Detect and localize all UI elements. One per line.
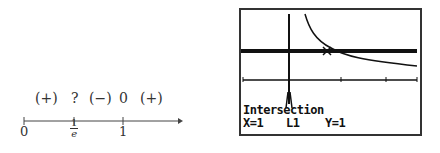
- sign-undefined: ?: [71, 90, 79, 106]
- y-value: Y=1: [325, 116, 345, 130]
- number-line: [0, 0, 200, 153]
- cursor-indicator: L1: [286, 116, 299, 130]
- tick-label-one-over-e: 1 e: [70, 118, 78, 139]
- tick-label-0: 0: [20, 124, 28, 139]
- sign-positive-2: (+): [140, 90, 163, 106]
- sign-negative: (−): [89, 90, 112, 106]
- calculator-screen: Intersection X=1 L1 Y=1: [239, 8, 422, 136]
- x-value: X=1: [243, 116, 263, 130]
- sign-zero: 0: [119, 90, 128, 106]
- intersection-label: Intersection: [243, 103, 324, 117]
- sign-positive-1: (+): [35, 90, 58, 106]
- tick-label-1: 1: [119, 124, 127, 139]
